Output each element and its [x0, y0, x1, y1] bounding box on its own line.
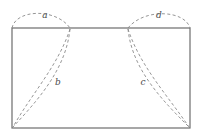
curve-c-inner	[128, 29, 189, 127]
bounding-rectangle	[12, 28, 190, 128]
label-c: c	[140, 77, 145, 87]
curve-c-outer	[128, 29, 189, 127]
label-b: b	[55, 77, 61, 87]
curve-b-outer	[13, 29, 70, 127]
label-d: d	[156, 10, 162, 20]
geometry-figure: a d b c	[0, 0, 203, 140]
arc-a	[12, 13, 70, 28]
curve-b-inner	[13, 29, 70, 127]
label-a: a	[42, 10, 47, 20]
figure-container: a d b c	[0, 0, 203, 140]
